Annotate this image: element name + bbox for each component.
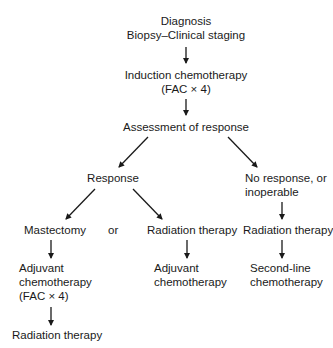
induction-label: Induction chemotherapy <box>125 68 248 82</box>
node-diagnosis: Diagnosis Biopsy–Clinical staging <box>127 14 245 42</box>
arrow-response-to-radiation <box>133 189 162 219</box>
node-response: Response <box>87 171 139 185</box>
diagnosis-label: Diagnosis <box>127 14 245 28</box>
node-adjuvant-chemotherapy-left: Adjuvant chemotherapy (FAC × 4) <box>19 261 92 303</box>
arrow-assessment-to-response <box>119 137 148 167</box>
second-line-label: Second-line <box>250 261 323 275</box>
inoperable-label: inoperable <box>245 185 327 199</box>
adjuvant-label: Adjuvant <box>19 261 92 275</box>
node-no-response: No response, or inoperable <box>245 171 327 199</box>
node-radiation-therapy-mid: Radiation therapy <box>147 223 237 237</box>
arrow-assessment-to-no-response <box>228 137 257 167</box>
adjuvant-label: Adjuvant <box>154 261 227 275</box>
node-adjuvant-chemotherapy-mid: Adjuvant chemotherapy <box>154 261 227 289</box>
node-second-line-chemotherapy: Second-line chemotherapy <box>250 261 323 289</box>
node-induction-chemotherapy: Induction chemotherapy (FAC × 4) <box>125 68 248 96</box>
node-radiation-therapy-final: Radiation therapy <box>12 328 102 342</box>
chemotherapy-label: chemotherapy <box>19 275 92 289</box>
adjuvant-regimen: (FAC × 4) <box>19 289 92 303</box>
node-mastectomy: Mastectomy <box>24 223 86 237</box>
biopsy-staging-label: Biopsy–Clinical staging <box>127 28 245 42</box>
or-label: or <box>108 223 118 237</box>
induction-regimen: (FAC × 4) <box>125 82 248 96</box>
chemotherapy-label: chemotherapy <box>250 275 323 289</box>
node-radiation-therapy-right: Radiation therapy <box>243 223 333 237</box>
no-response-label: No response, or <box>245 171 327 185</box>
node-assessment: Assessment of response <box>123 120 249 134</box>
chemotherapy-label: chemotherapy <box>154 275 227 289</box>
arrow-response-to-mastectomy <box>66 189 95 219</box>
